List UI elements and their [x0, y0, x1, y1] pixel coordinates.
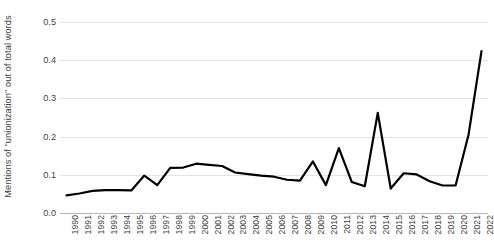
x-axis-tick-label: 2021	[472, 215, 482, 249]
x-axis-tick-label: 2013	[368, 215, 378, 249]
x-axis-tick-label: 1994	[122, 215, 132, 249]
x-axis-tick-label: 1990	[70, 215, 80, 249]
line-chart: Mentions of "unionization" out of total …	[0, 0, 494, 250]
x-axis-tick-label: 2019	[446, 215, 456, 249]
x-axis-tick-label: 2017	[420, 215, 430, 249]
x-axis-tick-label: 2020	[459, 215, 469, 249]
x-axis-tick-label: 1991	[83, 215, 93, 249]
x-axis-tick-label: 2003	[238, 215, 248, 249]
x-axis-baseline	[60, 213, 488, 214]
data-series-line	[60, 22, 488, 213]
x-axis-tick-label: 2000	[200, 215, 210, 249]
x-axis-tick-label: 2018	[433, 215, 443, 249]
x-axis-tick-label: 2016	[407, 215, 417, 249]
x-axis-tick-label: 2009	[316, 215, 326, 249]
x-axis-tick-label: 1998	[174, 215, 184, 249]
y-axis-title: Mentions of "unionization" out of total …	[0, 0, 16, 213]
x-axis-tick-label: 2010	[329, 215, 339, 249]
y-axis-tick-label: 0.4	[30, 55, 56, 65]
x-axis-tick-label: 1993	[109, 215, 119, 249]
x-axis-tick-label: 2012	[355, 215, 365, 249]
x-axis-tick-label: 1992	[96, 215, 106, 249]
x-axis-tick-label: 2011	[342, 215, 352, 249]
y-axis-tick-label: 0.2	[30, 132, 56, 142]
y-axis-tick-label: 0.1	[30, 170, 56, 180]
x-axis-tick-label: 2002	[226, 215, 236, 249]
x-axis-tick-label: 1996	[148, 215, 158, 249]
x-axis-tick-label: 2005	[264, 215, 274, 249]
y-axis-tick-label: 0.5	[30, 17, 56, 27]
plot-area	[60, 22, 488, 213]
x-axis-tick-label: 2008	[303, 215, 313, 249]
series-path	[66, 51, 481, 195]
x-axis-tick-labels: 1990199119921993199419951996199719981999…	[60, 215, 488, 250]
x-axis-tick-label: 2022	[485, 215, 494, 249]
x-axis-tick-label: 1995	[135, 215, 145, 249]
y-axis-tick-label: 0.0	[30, 208, 56, 218]
x-axis-tick-label: 2015	[394, 215, 404, 249]
x-axis-tick-label: 1997	[161, 215, 171, 249]
x-axis-tick-label: 2001	[213, 215, 223, 249]
y-axis-tick-label: 0.3	[30, 93, 56, 103]
x-axis-tick-label: 2007	[290, 215, 300, 249]
x-axis-tick-label: 1999	[187, 215, 197, 249]
x-axis-tick-label: 2014	[381, 215, 391, 249]
y-axis-tick-labels: 0.00.10.20.30.40.5	[30, 0, 56, 250]
x-axis-tick-label: 2004	[251, 215, 261, 249]
x-axis-tick-label: 2006	[277, 215, 287, 249]
